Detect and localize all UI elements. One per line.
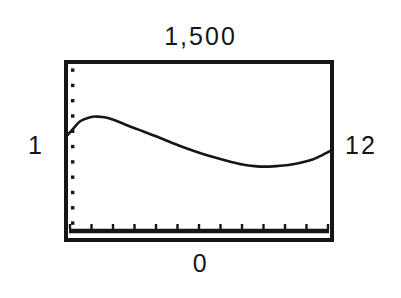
- plot-area: [0, 0, 401, 298]
- data-series-line: [66, 117, 332, 167]
- chart-figure: 1,500 1 12 0: [0, 0, 401, 298]
- plot-frame: [66, 62, 332, 240]
- y-axis-ticks: [71, 68, 74, 224]
- x-axis-baseline: [69, 224, 329, 231]
